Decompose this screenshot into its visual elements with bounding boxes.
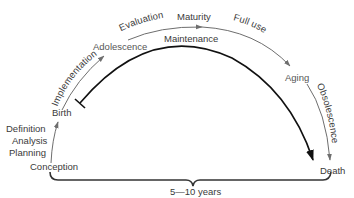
- label-maintenance: Maintenance: [164, 33, 218, 44]
- label-death: Death: [320, 165, 345, 176]
- label-planning: Planning: [9, 147, 46, 158]
- maintenance-arc: [80, 46, 313, 160]
- label-conception: Conception: [30, 161, 78, 172]
- label-implementation: Implementation: [49, 48, 99, 108]
- duration-brace: [50, 172, 331, 186]
- label-evaluation-text: Evaluation: [117, 9, 164, 33]
- label-adolescence: Adolescence: [93, 41, 147, 52]
- maintenance-start-bar: [75, 99, 85, 108]
- life-cycle-diagram: Definition Analysis Planning Birth Conce…: [0, 0, 354, 198]
- label-full-use: Full use: [232, 11, 269, 35]
- label-duration: 5—10 years: [170, 186, 221, 197]
- label-obsolescence: Obsolescence: [315, 81, 341, 144]
- label-maturity: Maturity: [177, 11, 211, 22]
- label-analysis: Analysis: [12, 135, 48, 146]
- label-aging: Aging: [285, 72, 309, 83]
- label-evaluation: Evaluation: [117, 9, 164, 33]
- conception-to-birth-arrow: [51, 122, 58, 163]
- label-implementation-text: Implementation: [49, 48, 99, 108]
- label-birth: Birth: [52, 107, 72, 118]
- label-full-use-text: Full use: [232, 11, 269, 35]
- label-obsolescence-text: Obsolescence: [315, 81, 341, 144]
- label-definition: Definition: [6, 123, 46, 134]
